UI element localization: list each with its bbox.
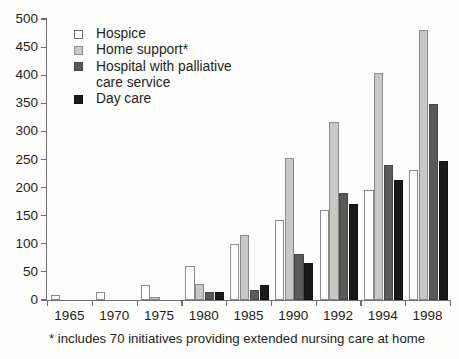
bar-1998-series-2 [429, 104, 438, 300]
legend-swatch-home-support-icon [74, 46, 83, 55]
chart-footnote: * includes 70 initiatives providing exte… [49, 331, 425, 346]
bar-1965-series-0 [51, 295, 60, 300]
legend-swatch-hospice-icon [74, 30, 83, 39]
bar-1990-series-0 [275, 220, 284, 300]
x-axis-tick [137, 300, 138, 306]
x-axis-tick [405, 300, 406, 306]
x-axis-tick [181, 300, 182, 306]
legend-item-hospital-palliative: Hospital with palliative [74, 59, 232, 75]
y-axis-tick-label: 200 [0, 181, 38, 195]
bar-1990-series-3 [304, 263, 313, 300]
bar-1975-series-1 [150, 297, 159, 300]
legend-item-home-support: Home support* [74, 42, 232, 58]
chart-legend: Hospice Home support* Hospital with pall… [74, 26, 232, 107]
bar-1992-series-1 [329, 122, 338, 300]
x-axis-line [46, 300, 450, 301]
y-axis-tick-label: 150 [0, 209, 38, 223]
bar-1980-series-3 [215, 292, 224, 300]
x-axis-tick [47, 300, 48, 306]
bar-1980-series-1 [195, 284, 204, 300]
y-axis-tick-label: 350 [0, 96, 38, 110]
legend-label-hospital-palliative: Hospital with palliative [96, 59, 232, 74]
bar-1980-series-0 [185, 266, 194, 300]
y-axis-tick-label: 500 [0, 12, 38, 26]
x-axis-tick [92, 300, 93, 306]
x-axis-tick-label: 1975 [137, 309, 182, 323]
bar-1994-series-0 [364, 190, 373, 300]
bar-1985-series-2 [250, 290, 259, 300]
bar-1992-series-0 [320, 210, 329, 300]
bar-1980-series-2 [205, 292, 214, 300]
legend-label-hospice: Hospice [96, 26, 146, 41]
x-axis-tick-label: 1985 [226, 309, 271, 323]
legend-label-home-support: Home support* [96, 42, 188, 57]
bar-1998-series-3 [439, 161, 448, 300]
y-axis-tick-label: 450 [0, 40, 38, 54]
legend-label-hospital-palliative-line2: care service [74, 75, 232, 91]
x-axis-tick-label: 1965 [47, 309, 92, 323]
y-axis-tick-label: 0 [0, 293, 38, 307]
x-axis-tick [271, 300, 272, 306]
y-axis-tick-label: 300 [0, 124, 38, 138]
y-axis-tick-label: 100 [0, 237, 38, 251]
bar-1994-series-2 [384, 165, 393, 300]
x-axis-tick-label: 1992 [316, 309, 361, 323]
bar-1998-series-1 [419, 30, 428, 300]
y-axis-tick-label: 50 [0, 265, 38, 279]
x-axis-tick [450, 300, 451, 306]
bar-1992-series-3 [349, 204, 358, 300]
legend-swatch-hospital-palliative-icon [74, 62, 83, 71]
bar-1990-series-1 [285, 158, 294, 300]
legend-item-hospice: Hospice [74, 26, 232, 42]
x-axis-tick-label: 1990 [271, 309, 316, 323]
bar-chart: 050100150200250300350400450500 196519701… [0, 0, 459, 359]
bar-1992-series-2 [339, 193, 348, 300]
x-axis-tick-label: 1994 [360, 309, 405, 323]
x-axis-tick [360, 300, 361, 306]
bar-1975-series-0 [141, 285, 150, 300]
bar-1985-series-0 [230, 244, 239, 300]
bar-1990-series-2 [294, 254, 303, 300]
bar-1970-series-0 [96, 292, 105, 300]
bar-1994-series-3 [394, 180, 403, 300]
x-axis-tick-label: 1998 [405, 309, 450, 323]
bar-1985-series-3 [260, 285, 269, 300]
y-axis-tick-label: 400 [0, 68, 38, 82]
bar-1994-series-1 [374, 73, 383, 300]
x-axis-tick-label: 1980 [181, 309, 226, 323]
legend-label-day-care: Day care [96, 91, 151, 106]
x-axis-tick [316, 300, 317, 306]
legend-swatch-day-care-icon [74, 95, 83, 104]
bar-1998-series-0 [409, 170, 418, 300]
legend-item-day-care: Day care [74, 91, 232, 107]
x-axis-tick-label: 1970 [92, 309, 137, 323]
bar-1985-series-1 [240, 235, 249, 300]
x-axis-tick [226, 300, 227, 306]
y-axis-tick-label: 250 [0, 153, 38, 167]
